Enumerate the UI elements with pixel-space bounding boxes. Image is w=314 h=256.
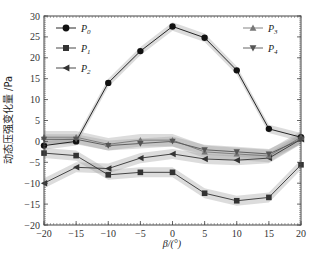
square-marker-icon — [202, 190, 208, 196]
y-tick-label: −15 — [24, 199, 40, 210]
square-marker-icon — [105, 172, 111, 178]
legend-item-p4: P4 — [243, 43, 278, 56]
legend-item-p1: P1 — [56, 43, 91, 56]
legend-label: P1 — [80, 43, 91, 56]
circle-marker-icon — [169, 23, 175, 29]
legend-label: P4 — [267, 43, 278, 56]
y-tick-label: 30 — [30, 11, 40, 22]
legend-label: P2 — [80, 63, 91, 76]
legend-item-p3: P3 — [243, 23, 278, 36]
y-tick-label: 10 — [30, 94, 40, 105]
y-tick-label: 25 — [30, 31, 40, 42]
x-tick-label: −10 — [100, 228, 116, 239]
y-tick-label: 0 — [35, 136, 40, 147]
x-tick-label: −15 — [68, 228, 84, 239]
legend-item-p2: P2 — [56, 63, 91, 76]
y-tick-label: 20 — [30, 52, 40, 63]
square-marker-icon — [73, 153, 79, 159]
square-marker-icon — [266, 195, 272, 201]
triangle-left-marker-icon — [63, 65, 70, 72]
line-chart: −20−15−10−505101520 −20−15−10−5051015202… — [0, 0, 314, 256]
x-tick-label: 20 — [296, 228, 306, 239]
x-tick-label: −5 — [135, 228, 146, 239]
band-p0 — [44, 22, 301, 149]
legend-item-p0: P0 — [56, 23, 91, 36]
y-tick-label: −5 — [29, 157, 40, 168]
square-marker-icon — [170, 170, 176, 176]
circle-marker-icon — [105, 80, 111, 86]
circle-marker-icon — [266, 126, 272, 132]
y-tick-label: 5 — [35, 115, 40, 126]
circle-marker-icon — [234, 67, 240, 73]
y-tick-label: −20 — [24, 220, 40, 231]
legend-label: P3 — [267, 23, 278, 36]
x-tick-label: 10 — [232, 228, 242, 239]
x-tick-label: 15 — [264, 228, 274, 239]
y-tick-label: −10 — [24, 178, 40, 189]
circle-marker-icon — [137, 48, 143, 54]
square-marker-icon — [234, 198, 240, 204]
square-marker-icon — [63, 45, 69, 51]
circle-marker-icon — [201, 35, 207, 41]
square-marker-icon — [138, 170, 144, 176]
legend-label: P0 — [80, 23, 91, 36]
circle-marker-icon — [63, 25, 70, 32]
y-axis-title: 动态压强变化量 /Pa — [2, 76, 14, 164]
y-tick-label: 15 — [30, 73, 40, 84]
x-axis-title: β/(°) — [162, 238, 182, 250]
x-tick-label: 5 — [202, 228, 207, 239]
